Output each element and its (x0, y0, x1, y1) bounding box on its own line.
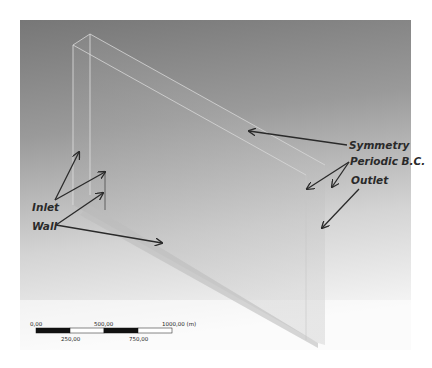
scale-tick-0: 0,00 (30, 321, 43, 327)
wall-label: Wall (32, 220, 58, 232)
inlet-label: Inlet (32, 201, 60, 213)
cfd-domain-viewport: Symmetry Periodic B.C. Outlet Inlet Wall… (0, 0, 432, 368)
periodic-label: Periodic B.C. (350, 155, 425, 167)
scale-tick-500: 500,00 (94, 321, 114, 327)
symmetry-label: Symmetry (349, 139, 411, 151)
scale-tick-1000: 1000,00 (m) (162, 321, 196, 327)
scale-tick-750: 750,00 (129, 336, 149, 342)
scale-tick-250: 250,00 (61, 336, 81, 342)
outlet-label: Outlet (351, 174, 389, 186)
domain-drawing: Symmetry Periodic B.C. Outlet Inlet Wall… (0, 0, 432, 368)
